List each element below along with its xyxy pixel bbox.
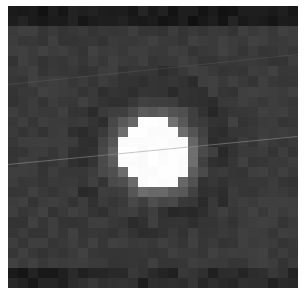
pixel: [28, 278, 38, 288]
pixel: [158, 228, 168, 238]
pixel: [158, 248, 168, 258]
pixel: [218, 157, 228, 167]
pixel: [198, 157, 208, 167]
pixel: [228, 197, 238, 207]
pixel: [88, 127, 98, 137]
pixel: [238, 147, 248, 157]
pixel: [158, 76, 168, 86]
pixel: [188, 268, 198, 278]
pixel: [248, 16, 258, 26]
pixel: [68, 66, 78, 76]
pixel: [248, 26, 258, 36]
pixel: [198, 238, 208, 248]
pixel: [228, 228, 238, 238]
pixel: [128, 56, 138, 66]
pixel: [28, 147, 38, 157]
pixel: [68, 137, 78, 147]
pixel: [278, 117, 288, 127]
pixel: [128, 207, 138, 217]
pixel: [108, 127, 118, 137]
pixel: [158, 16, 168, 26]
pixel: [158, 56, 168, 66]
pixel: [68, 217, 78, 227]
pixel: [238, 228, 248, 238]
pixel: [238, 66, 248, 76]
pixel: [148, 197, 158, 207]
pixel: [218, 6, 228, 16]
pixel: [238, 197, 248, 207]
pixel: [118, 258, 128, 268]
pixel: [228, 217, 238, 227]
pixel: [228, 268, 238, 278]
pixel: [38, 278, 48, 288]
pixel: [148, 278, 158, 288]
pixel: [168, 76, 178, 86]
pixel: [78, 36, 88, 46]
pixel: [238, 187, 248, 197]
pixel: [188, 217, 198, 227]
pixel: [108, 187, 118, 197]
pixel: [108, 76, 118, 86]
pixel: [288, 268, 298, 278]
pixel: [98, 76, 108, 86]
pixel: [168, 16, 178, 26]
pixel: [198, 248, 208, 258]
pixel: [38, 238, 48, 248]
pixel: [18, 87, 28, 97]
pixel: [138, 197, 148, 207]
pixel: [118, 76, 128, 86]
pixel: [248, 87, 258, 97]
pixel: [8, 238, 18, 248]
pixel: [258, 87, 268, 97]
pixel: [118, 197, 128, 207]
pixel: [48, 127, 58, 137]
pixel: [208, 36, 218, 46]
pixel: [48, 167, 58, 177]
pixel: [88, 268, 98, 278]
pixel: [148, 258, 158, 268]
pixel: [158, 127, 168, 137]
pixel: [228, 107, 238, 117]
pixel: [288, 217, 298, 227]
pixel: [268, 177, 278, 187]
pixel: [18, 248, 28, 258]
pixel: [138, 46, 148, 56]
pixel: [168, 187, 178, 197]
pixel: [258, 147, 268, 157]
pixel: [128, 238, 138, 248]
pixel: [68, 6, 78, 16]
pixel: [18, 107, 28, 117]
pixel: [88, 177, 98, 187]
pixel: [48, 207, 58, 217]
pixel: [108, 107, 118, 117]
pixel: [138, 66, 148, 76]
pixel: [258, 167, 268, 177]
pixel: [108, 66, 118, 76]
pixel: [208, 66, 218, 76]
pixel: [8, 147, 18, 157]
pixel: [278, 87, 288, 97]
pixel: [188, 177, 198, 187]
pixel: [138, 137, 148, 147]
pixel: [188, 26, 198, 36]
pixel: [268, 157, 278, 167]
pixel: [78, 248, 88, 258]
pixel: [88, 258, 98, 268]
pixel: [208, 76, 218, 86]
pixel: [18, 228, 28, 238]
pixel: [258, 268, 268, 278]
pixel: [268, 268, 278, 278]
pixel: [248, 157, 258, 167]
pixel: [288, 16, 298, 26]
pixel: [128, 6, 138, 16]
pixel: [38, 268, 48, 278]
pixel: [228, 87, 238, 97]
pixel: [128, 76, 138, 86]
pixel: [118, 117, 128, 127]
pixel: [68, 228, 78, 238]
pixel: [158, 177, 168, 187]
pixel: [58, 66, 68, 76]
pixel: [88, 97, 98, 107]
pixel: [238, 6, 248, 16]
pixel: [48, 177, 58, 187]
